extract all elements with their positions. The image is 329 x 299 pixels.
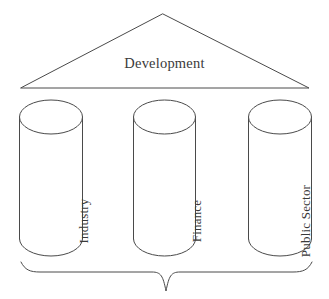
pillar-industry <box>20 100 83 256</box>
diagram-vector-layer <box>0 0 329 299</box>
pillar-finance-bottom-arc <box>134 239 196 256</box>
pillar-public-sector <box>249 100 312 256</box>
roof-pediment <box>21 14 309 88</box>
base-brace-path <box>21 262 312 291</box>
roof-triangle-outline <box>21 14 309 88</box>
pillar-public-sector-bottom-arc <box>249 239 312 256</box>
diagram-canvas: Development Industry Finance Public Sect… <box>0 0 329 299</box>
pillar-finance-top-cap <box>134 100 196 134</box>
pillar-industry-bottom-arc <box>20 239 83 256</box>
base-curly-brace <box>21 262 312 291</box>
pillar-industry-top-cap <box>20 100 83 134</box>
pillar-public-sector-top-cap <box>249 100 312 134</box>
pillar-finance <box>134 100 196 256</box>
